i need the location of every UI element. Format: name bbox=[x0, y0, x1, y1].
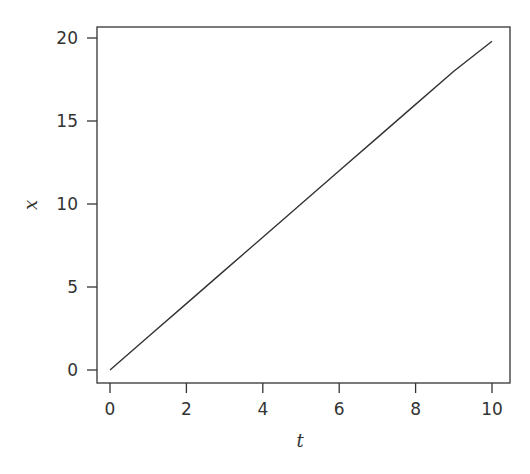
y-axis: 05101520 bbox=[56, 28, 97, 380]
x-tick-label: 4 bbox=[257, 399, 268, 419]
plot-border bbox=[97, 27, 510, 383]
x-tick-label: 8 bbox=[410, 399, 421, 419]
x-axis-title: t bbox=[296, 430, 304, 451]
line-chart: 0246810 05101520 t x bbox=[0, 0, 530, 474]
x-tick-label: 0 bbox=[105, 399, 116, 419]
x-tick-label: 10 bbox=[481, 399, 503, 419]
plot-frame bbox=[97, 27, 510, 383]
y-tick-label: 10 bbox=[56, 194, 78, 214]
y-tick-label: 5 bbox=[67, 277, 78, 297]
x-axis: 0246810 bbox=[105, 383, 503, 419]
series-layer bbox=[110, 41, 492, 370]
y-tick-label: 20 bbox=[56, 28, 78, 48]
y-tick-label: 15 bbox=[56, 111, 78, 131]
x-tick-label: 2 bbox=[181, 399, 192, 419]
y-tick-label: 0 bbox=[67, 360, 78, 380]
series-line bbox=[110, 41, 492, 370]
x-tick-label: 6 bbox=[334, 399, 345, 419]
y-axis-title: x bbox=[20, 200, 41, 210]
